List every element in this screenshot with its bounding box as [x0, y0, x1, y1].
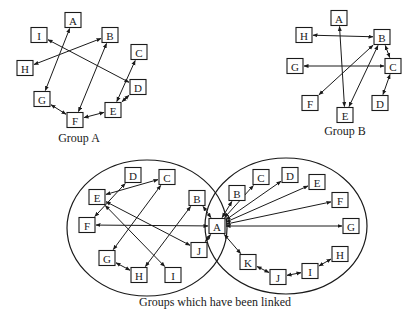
diagram-canvas: AIBHCDGEFAHBGCFDEDCEBFAJGHIBCDEFGKHIJ Gr… — [0, 0, 417, 318]
node-linked-RH: H — [332, 247, 348, 262]
edge-linked-A-RF — [226, 202, 331, 224]
node-label: C — [389, 61, 396, 73]
node-label: J — [197, 245, 202, 257]
node-linked-LH: H — [131, 268, 147, 283]
edge-groupA-D-E — [122, 95, 129, 101]
group-labels: Group A Group B Groups which have been l… — [58, 124, 366, 309]
node-label: E — [314, 177, 321, 189]
node-groupA-C: C — [131, 45, 147, 60]
node-label: E — [110, 105, 117, 117]
edge-linked-A-LB — [203, 207, 211, 218]
node-label: J — [276, 272, 281, 284]
group-b-label: Group B — [324, 124, 366, 138]
node-label: E — [94, 192, 101, 204]
node-label: D — [129, 170, 137, 182]
node-linked-RK: K — [240, 255, 256, 270]
node-linked-LI: I — [165, 268, 181, 283]
node-label: I — [37, 30, 41, 42]
node-label: B — [193, 193, 200, 205]
edge-groupB-H-B — [313, 35, 373, 37]
node-label: H — [21, 63, 29, 75]
node-label: B — [106, 30, 113, 42]
node-linked-RI: I — [302, 264, 318, 279]
node-label: A — [335, 13, 343, 25]
node-linked-RE: E — [309, 175, 325, 190]
node-linked-LC: C — [159, 170, 175, 185]
nodes: AIBHCDGEFAHBGCFDEDCEBFAJGHIBCDEFGKHIJ — [17, 11, 401, 285]
node-linked-LD: D — [125, 168, 141, 183]
node-label: K — [244, 257, 252, 269]
node-groupB-G: G — [287, 59, 303, 74]
node-groupA-G: G — [34, 92, 50, 107]
node-groupA-D: D — [130, 80, 146, 95]
node-linked-LG: G — [99, 251, 115, 266]
node-label: G — [103, 253, 111, 265]
edge-groupA-A-G — [45, 29, 69, 91]
node-label: C — [257, 172, 264, 184]
node-label: F — [84, 220, 90, 232]
node-label: H — [300, 30, 308, 42]
node-linked-LE: E — [89, 190, 105, 205]
edge-groupB-C-D — [383, 75, 390, 95]
node-groupB-E: E — [337, 108, 353, 123]
edge-linked-LB-LH — [145, 207, 190, 267]
edge-linked-RI-RH — [319, 259, 331, 266]
node-label: I — [308, 266, 312, 278]
node-linked-RF: F — [332, 193, 348, 208]
node-groupA-H: H — [17, 61, 33, 76]
node-label: A — [213, 221, 221, 233]
node-groupB-F: F — [302, 96, 318, 111]
edge-linked-RJ-RI — [287, 273, 301, 276]
node-label: F — [72, 115, 78, 127]
edge-groupB-B-C — [385, 46, 390, 58]
node-groupB-C: C — [385, 59, 401, 74]
edge-groupA-I-D — [48, 40, 129, 83]
node-groupA-F: F — [67, 113, 83, 128]
node-linked-RC: C — [253, 170, 269, 185]
node-groupA-E: E — [105, 103, 121, 118]
edge-groupB-B-F — [319, 45, 373, 95]
node-label: G — [38, 94, 46, 106]
edges — [34, 27, 390, 276]
node-label: D — [134, 82, 142, 94]
node-groupA-B: B — [102, 28, 118, 43]
node-linked-LJ: J — [191, 243, 207, 258]
node-label: F — [337, 195, 343, 207]
node-label: B — [233, 188, 240, 200]
node-label: B — [378, 32, 385, 44]
edge-linked-A-RK — [224, 235, 240, 254]
node-label: D — [376, 98, 384, 110]
node-linked-A: A — [209, 219, 225, 234]
node-label: A — [69, 15, 77, 27]
edge-groupA-B-F — [79, 44, 107, 112]
edge-groupA-G-F — [51, 105, 66, 115]
node-linked-LF: F — [79, 218, 95, 233]
node-label: C — [163, 172, 170, 184]
node-label: H — [135, 270, 143, 282]
edge-groupA-E-F — [84, 112, 104, 117]
node-groupB-H: H — [296, 28, 312, 43]
node-label: E — [342, 110, 349, 122]
node-label: G — [291, 61, 299, 73]
node-linked-RG: G — [343, 219, 359, 234]
node-groupA-A: A — [65, 13, 81, 28]
linked-groups-caption: Groups which have been linked — [139, 295, 291, 309]
node-label: F — [307, 98, 313, 110]
node-linked-RD: D — [282, 168, 298, 183]
node-label: H — [336, 249, 344, 261]
node-linked-LB: B — [189, 191, 205, 206]
edge-linked-A-LF — [96, 225, 208, 226]
edge-linked-RK-RJ — [257, 267, 269, 273]
node-label: I — [171, 270, 175, 282]
node-label: D — [286, 170, 294, 182]
node-groupA-I: I — [31, 28, 47, 43]
edge-linked-LG-LH — [116, 263, 130, 270]
node-groupB-B: B — [374, 30, 390, 45]
node-groupB-D: D — [372, 96, 388, 111]
node-groupB-A: A — [331, 11, 347, 26]
group-a-label: Group A — [58, 131, 100, 145]
node-linked-RB: B — [229, 186, 245, 201]
node-label: G — [347, 221, 355, 233]
node-label: C — [135, 47, 142, 59]
node-linked-RJ: J — [270, 270, 286, 285]
